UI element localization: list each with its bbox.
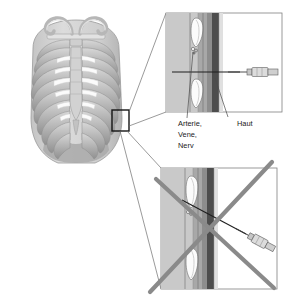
thorax-group[interactable] [31,18,129,163]
layer-surface-bottom [214,168,218,289]
label-skin: Haut [237,119,253,128]
manubrium [47,34,105,39]
label-bundle-line1: Arterie, [178,119,202,128]
layer-skin-top [212,13,219,112]
panel-correct[interactable] [166,13,282,118]
layer-subcutis-bottom [202,168,207,289]
panel-incorrect[interactable] [150,162,277,292]
layer-surface-top [219,13,223,112]
label-bundle-line3: Nerv [178,141,194,150]
layer-subcutis-top [207,13,212,112]
intercostal-puncture-figure: Arterie, Vene, Nerv Haut [0,0,285,300]
label-bundle-line2: Vene, [178,130,197,139]
